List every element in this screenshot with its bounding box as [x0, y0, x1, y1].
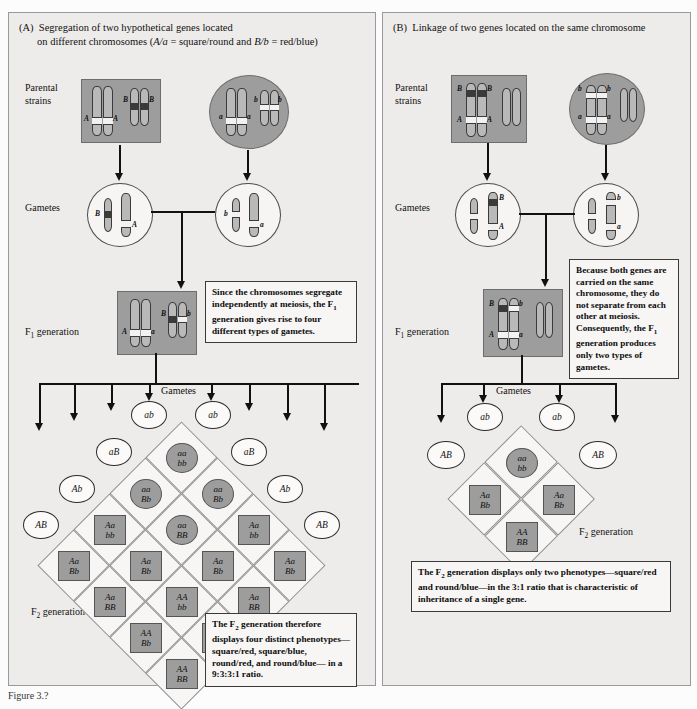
allele-label: B: [161, 309, 166, 318]
genotype-top: Aa: [105, 592, 115, 602]
gamete-bus-a: [39, 383, 359, 385]
gamete-label: AB: [316, 520, 328, 530]
cross-connector-a2: [183, 211, 215, 213]
chromosome: [140, 88, 149, 126]
arrow-a-right: [247, 150, 249, 175]
allele-label: A: [132, 220, 137, 229]
gamete-label: ab: [144, 410, 154, 420]
bus-drop-2: [74, 383, 76, 415]
genotype-bottom: bb: [250, 530, 259, 540]
label-f2-a-text: F2 generation: [31, 606, 85, 617]
genotype-square: AaBb: [543, 485, 575, 515]
arrow-head: [437, 415, 445, 423]
genotype-top: aa: [518, 453, 527, 463]
chromosome: [588, 198, 596, 234]
genotype-bottom: bb: [106, 530, 115, 540]
allele-label: B: [489, 299, 494, 308]
allele-label: a: [607, 112, 611, 121]
label-gametes-a-text: Gametes: [25, 202, 60, 213]
gamete-bubble-ab-1: ab: [131, 401, 167, 429]
genotype-top: AA: [141, 628, 152, 638]
arrow-head: [611, 415, 619, 423]
chromosome: [466, 83, 476, 137]
genotype-bottom: bb: [518, 463, 527, 473]
chromosome: [629, 88, 637, 122]
genotype-top: AA: [517, 527, 528, 537]
chromosome: [536, 302, 544, 338]
chromosome: [121, 193, 131, 237]
genotype-square: AaBb: [274, 551, 306, 581]
note-b-f1-text: Because both genes are carried on the sa…: [576, 265, 666, 372]
bus-drop-b1: [441, 383, 443, 417]
genotype-top: Aa: [213, 556, 223, 566]
gamete-label: Ab: [280, 484, 291, 494]
label-f1-b-text: F1 generation: [395, 326, 449, 337]
note-a-f2: The F2 generation therefore displays fou…: [205, 613, 357, 687]
note-a-f2-text: The F2 generation therefore displays fou…: [212, 619, 350, 679]
gamete-bubble-aB-2: aB: [231, 438, 267, 466]
chromosome: [512, 88, 521, 126]
gamete-bubble-b-ab-1: ab: [467, 403, 503, 431]
parent-strain-a-left: A A B B: [81, 79, 161, 143]
chromosome: [141, 299, 151, 347]
genotype-square: AaBb: [202, 551, 234, 581]
chromosome: [178, 302, 187, 338]
arrow-head: [283, 413, 291, 421]
allele-label: a: [219, 112, 223, 121]
panel-a-gene1: A/a: [153, 36, 168, 47]
arrow-head: [177, 281, 185, 289]
panel-a: (A) Segregation of two hypothetical gene…: [8, 12, 376, 686]
allele-label: b: [224, 209, 228, 218]
parent-strain-a-right: a a b b: [209, 75, 289, 149]
chromosome: [620, 88, 628, 122]
gamete-label: Ab: [72, 484, 83, 494]
chromosome: [586, 85, 596, 135]
genotype-round: aaBB: [166, 515, 198, 545]
gamete-label: AB: [440, 450, 452, 460]
note-b-f2: The F2 generation displays only two phen…: [411, 561, 671, 612]
arrow-head: [245, 403, 253, 411]
genotype-bottom: Bb: [213, 566, 223, 576]
chromosome: [502, 88, 511, 126]
panel-a-title-line2-pre: on different chromosomes (: [37, 36, 153, 47]
allele-label: A: [487, 115, 492, 124]
genotype-bottom: Bb: [480, 500, 490, 510]
genotype-top: Aa: [105, 520, 115, 530]
parent-strain-b-right: b b a a: [569, 73, 645, 145]
gamete-label: aB: [109, 447, 120, 457]
gamete-bubble-b-ab-2: ab: [539, 403, 575, 431]
genotype-bottom: BB: [517, 537, 528, 547]
allele-label: B: [149, 95, 154, 104]
chromosome: [260, 90, 269, 126]
genotype-top: Aa: [69, 556, 79, 566]
bus-drop-6: [249, 383, 251, 405]
panel-b-title: (B) Linkage of two genes located on the …: [393, 21, 683, 35]
arrow-head: [115, 173, 123, 181]
gamete-label: aB: [244, 447, 255, 457]
genotype-top: aa: [214, 484, 223, 494]
cross-connector-b2: [547, 213, 575, 215]
genotype-top: Aa: [554, 490, 564, 500]
arrow-head: [555, 395, 563, 403]
label-gametes-center-b: Gametes: [496, 385, 531, 396]
genotype-square: AaBB: [94, 587, 126, 617]
chromosome: [103, 86, 113, 136]
allele-label: B: [499, 193, 504, 202]
genotype-round: aaBb: [202, 479, 234, 509]
gamete-bubble-Ab-1: Ab: [59, 475, 95, 503]
gamete-bubble-b-AB-1: AB: [427, 441, 465, 469]
genotype-round: aaBb: [130, 479, 162, 509]
genotype-bottom: Bb: [141, 494, 151, 504]
label-parental-strains-b-text: Parental strains: [395, 82, 428, 106]
allele-label: a: [260, 220, 264, 229]
chromosome: [597, 85, 607, 135]
note-a-f1-text: Since the chromosomes segregate independ…: [212, 287, 342, 336]
allele-label: b: [187, 309, 191, 318]
genotype-top: aa: [178, 520, 187, 530]
genotype-round: aabb: [506, 448, 538, 478]
arrow-a-left: [119, 145, 121, 175]
genotype-bottom: Bb: [69, 566, 79, 576]
gamete-label: AB: [35, 520, 47, 530]
genotype-bottom: Bb: [213, 494, 223, 504]
f1-box-a: A a B b: [117, 291, 197, 355]
